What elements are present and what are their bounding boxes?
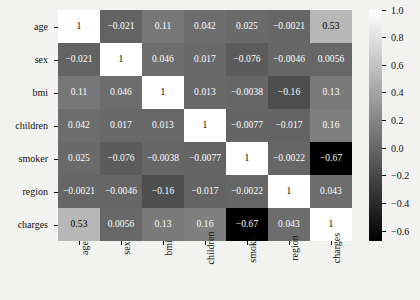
heatmap-cell: −0.076 (100, 142, 142, 175)
colorbar-tick-mark (382, 92, 386, 93)
x-axis-label-smoker: smoker (247, 233, 258, 262)
heatmap-cell: 0.0056 (310, 43, 352, 76)
heatmap-cell: 0.11 (58, 76, 100, 109)
heatmap-cell: 0.013 (184, 76, 226, 109)
heatmap-cell: −0.0021 (268, 10, 310, 43)
x-axis-label-sex: sex (121, 241, 132, 254)
heatmap-cell: −0.0022 (268, 142, 310, 175)
heatmap-cell: 0.042 (58, 109, 100, 142)
colorbar-tick-value: 0.8 (391, 32, 404, 43)
y-axis-labels: agesexbmichildrensmokerregioncharges (0, 10, 51, 241)
heatmap-cell: 0.025 (226, 10, 268, 43)
heatmap-grid: 1−0.0210.110.0420.025−0.00210.53−0.02110… (58, 10, 352, 241)
x-axis-label-children: children (205, 232, 216, 265)
colorbar-tick-mark (382, 65, 386, 66)
colorbar-tick-value: −0.2 (391, 170, 409, 181)
colorbar-tick-mark (382, 203, 386, 204)
heatmap-cell: −0.0038 (142, 142, 184, 175)
heatmap-cell: 0.13 (142, 208, 184, 241)
colorbar-tick-mark (382, 175, 386, 176)
y-axis-label-sex: sex (0, 43, 51, 76)
heatmap-cell: 1 (142, 76, 184, 109)
heatmap-cell: 0.53 (310, 10, 352, 43)
heatmap-cell: 1 (100, 43, 142, 76)
y-axis-label-bmi: bmi (0, 76, 51, 109)
x-axis-label-age: age (79, 241, 90, 255)
colorbar-tick-mark (382, 148, 386, 149)
heatmap-cell: −0.0022 (226, 175, 268, 208)
heatmap-cell: 0.13 (310, 76, 352, 109)
colorbar-tick-mark (382, 10, 386, 11)
colorbar-tick-value: 0.0 (391, 143, 404, 154)
heatmap-cell: −0.017 (184, 175, 226, 208)
heatmap-cell: 0.017 (184, 43, 226, 76)
colorbar-tick-value: 1.0 (391, 5, 404, 16)
colorbar-tick-labels: 1.00.80.60.40.20.0−0.2−0.4−0.6 (382, 10, 420, 241)
heatmap-cell: −0.0038 (226, 76, 268, 109)
heatmap-cell: −0.076 (226, 43, 268, 76)
heatmap-cell: 0.046 (142, 43, 184, 76)
heatmap-cell: −0.0021 (58, 175, 100, 208)
heatmap-cell: 0.046 (100, 76, 142, 109)
x-axis-label-region: region (289, 235, 300, 261)
heatmap-cell: 0.042 (184, 10, 226, 43)
heatmap-cell: 1 (58, 10, 100, 43)
heatmap-cell: −0.0077 (226, 109, 268, 142)
x-axis-label-bmi: bmi (163, 240, 174, 256)
colorbar-tick-value: 0.2 (391, 115, 404, 126)
correlation-heatmap-figure: agesexbmichildrensmokerregioncharges 1−0… (0, 0, 420, 300)
heatmap-cell: −0.021 (100, 10, 142, 43)
heatmap-cell: 0.53 (58, 208, 100, 241)
colorbar-tick-value: 0.4 (391, 87, 404, 98)
heatmap-cell: −0.16 (268, 76, 310, 109)
heatmap-cell: 1 (226, 142, 268, 175)
heatmap-cell: 0.043 (310, 175, 352, 208)
heatmap-cell: 0.025 (58, 142, 100, 175)
heatmap-cell: 0.013 (142, 109, 184, 142)
y-axis-label-charges: charges (0, 208, 51, 241)
heatmap-cell: −0.67 (310, 142, 352, 175)
heatmap-cell: 0.16 (310, 109, 352, 142)
heatmap-cell: 0.0056 (100, 208, 142, 241)
heatmap-cell: −0.0077 (184, 142, 226, 175)
heatmap-cell: 1 (184, 109, 226, 142)
colorbar-tick-mark (382, 231, 386, 232)
heatmap-cell: 0.11 (142, 10, 184, 43)
x-axis-labels: agesexbmichildrensmokerregioncharges (58, 248, 352, 300)
y-axis-label-smoker: smoker (0, 142, 51, 175)
y-axis-label-region: region (0, 175, 51, 208)
colorbar-tick-value: −0.4 (391, 198, 409, 209)
heatmap-cell: 1 (268, 175, 310, 208)
colorbar-tick-mark (382, 37, 386, 38)
heatmap-cell: −0.021 (58, 43, 100, 76)
y-axis-label-children: children (0, 109, 51, 142)
heatmap-cell: −0.017 (268, 109, 310, 142)
colorbar-gradient (369, 10, 382, 241)
colorbar-tick-value: 0.6 (391, 60, 404, 71)
colorbar-tick-mark (382, 120, 386, 121)
heatmap-cell: −0.0046 (268, 43, 310, 76)
y-axis-label-age: age (0, 10, 51, 43)
heatmap-cell: −0.0046 (100, 175, 142, 208)
heatmap-cell: −0.16 (142, 175, 184, 208)
colorbar-tick-value: −0.6 (391, 226, 409, 237)
heatmap-cell: 0.017 (100, 109, 142, 142)
x-axis-label-charges: charges (331, 233, 342, 263)
